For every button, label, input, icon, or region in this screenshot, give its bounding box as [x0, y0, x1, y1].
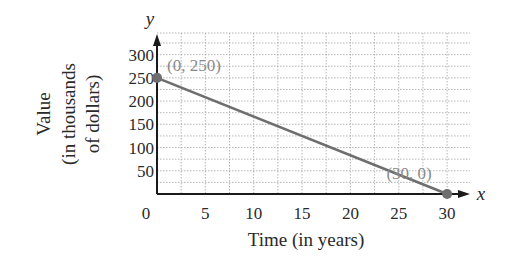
x-tick-label: 10 — [245, 204, 262, 223]
data-point — [442, 189, 452, 199]
y-tick-label: 250 — [129, 69, 155, 88]
x-tick-label: 5 — [201, 204, 210, 223]
line-chart: 05101520253050100150200250300 (0, 250)(3… — [0, 0, 507, 263]
y-tick-label: 200 — [129, 92, 155, 111]
y-axis-name: y — [144, 8, 155, 29]
x-tick-label: 15 — [294, 204, 311, 223]
y-tick-label: 300 — [129, 46, 155, 65]
x-axis-name: x — [476, 183, 486, 204]
y-axis-title: Value (in thousands of dollars) — [33, 63, 104, 165]
data-point-label: (30, 0) — [386, 164, 431, 183]
x-axis-arrow-icon — [458, 190, 470, 198]
x-tick-label: 20 — [342, 204, 359, 223]
y-tick-label: 150 — [129, 115, 155, 134]
y-tick-label: 50 — [137, 162, 154, 181]
x-tick-label: 0 — [142, 204, 151, 223]
x-tick-label: 25 — [390, 204, 407, 223]
y-tick-label: 100 — [129, 139, 155, 158]
y-axis-title-line-2: (in thousands — [58, 63, 80, 165]
y-axis-title-line-1: Value — [33, 92, 54, 135]
data-point — [152, 73, 162, 83]
y-axis-arrow-icon — [153, 34, 161, 46]
y-axis-title-line-3: of dollars) — [82, 75, 104, 154]
x-axis-title: Time (in years) — [248, 229, 364, 251]
data-point-label: (0, 250) — [167, 56, 221, 75]
x-tick-label: 30 — [439, 204, 456, 223]
